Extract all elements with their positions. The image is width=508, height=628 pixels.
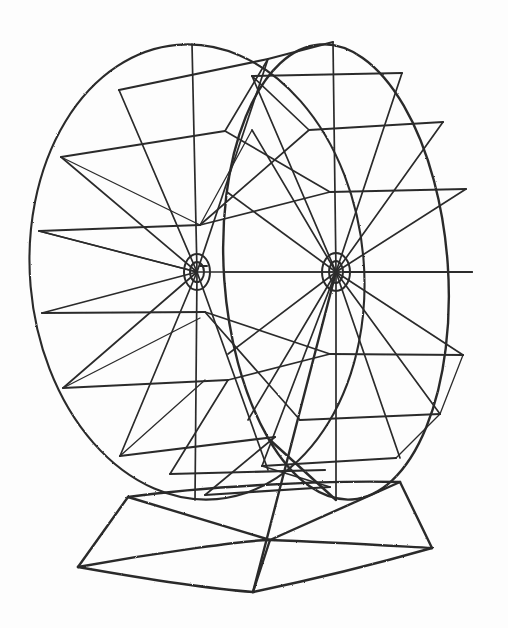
wheel-sketch-illustration: Hand drawn perspective sketch of a large… [0,0,508,628]
paper-background [0,0,508,628]
sketch-canvas: Hand drawn perspective sketch of a large… [0,0,508,628]
